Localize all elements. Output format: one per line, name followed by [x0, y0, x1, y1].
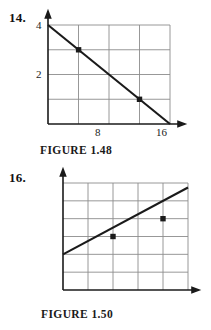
y-axis-arrow: [45, 11, 50, 18]
data-line: [63, 188, 188, 255]
x-axis-arrow: [192, 287, 199, 292]
data-point-marker: [110, 234, 115, 239]
data-line-series: [63, 188, 188, 255]
y-axis-arrow: [60, 169, 65, 176]
y-tick-label-2: 2: [36, 68, 42, 80]
chart-1448-svg: [0, 0, 211, 140]
chart-1450-svg: [0, 160, 211, 305]
data-point-marker: [76, 47, 81, 52]
y-tick-label-4: 4: [36, 19, 42, 31]
axes: [45, 11, 185, 127]
chart-1450: 4000 2000 5: [0, 160, 211, 305]
x-axis-arrow: [178, 121, 185, 126]
figure-caption-1448: FIGURE 1.48: [40, 144, 112, 156]
axes: [60, 169, 199, 293]
chart-1448: 4 2 8 16: [0, 0, 211, 140]
grid-lines: [63, 183, 188, 290]
data-point-marker: [137, 97, 142, 102]
x-tick-label-8: 8: [95, 126, 101, 138]
figure-caption-1450: FIGURE 1.50: [41, 308, 113, 320]
x-tick-label-16: 16: [156, 126, 167, 138]
data-point-marker: [160, 216, 165, 221]
